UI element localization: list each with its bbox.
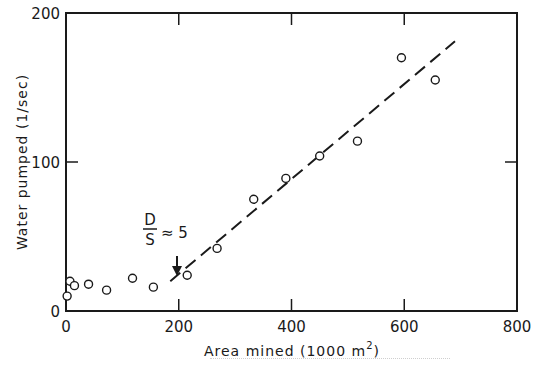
data-point [70,282,78,290]
y-tick-label: 0 [50,303,60,321]
x-tick-label: 400 [277,318,306,336]
data-point [353,137,361,145]
data-point [85,280,93,288]
y-axis-title: Water pumped (1/sec) [14,74,30,250]
ratio-annotation: D S ≈ 5 [143,211,188,276]
data-point [316,152,324,160]
data-point [103,286,111,294]
data-point [149,283,157,291]
annotation-numerator: D [144,211,156,229]
x-tick-label: 600 [390,318,419,336]
data-point [282,174,290,182]
x-axis-title: Area mined (1000 m2) [204,340,380,359]
trend-line [170,41,455,281]
y-tick-label: 100 [31,154,60,172]
plot-frame [66,13,517,311]
data-point [250,195,258,203]
y-tick-label: 200 [31,5,60,23]
x-tick-label: 0 [61,318,71,336]
data-point [431,76,439,84]
data-point [397,54,405,62]
arrow-down-icon [172,266,182,276]
data-point [183,271,191,279]
faint-caption-line [210,358,450,361]
data-point [213,244,221,252]
axis-ticks [66,13,517,311]
annotation-denominator: S [145,231,155,249]
data-point [63,292,71,300]
data-point [129,274,137,282]
x-tick-label: 200 [164,318,193,336]
data-points [63,54,439,300]
annotation-approx: ≈ 5 [161,224,188,242]
x-tick-label: 800 [503,318,532,336]
chart: 02004006008000100200 Water pumped (1/sec… [0,0,544,371]
